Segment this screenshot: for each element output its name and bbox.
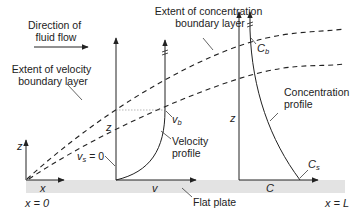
origin-z-label: z bbox=[16, 140, 23, 152]
concentration-profile-label: Concentration profile bbox=[284, 86, 352, 110]
leader-v-s bbox=[105, 156, 115, 166]
velocity-profile-curve bbox=[116, 110, 165, 180]
c-s-label: Cs bbox=[308, 158, 320, 172]
concentration-z-label: z bbox=[229, 112, 236, 124]
end-position-label: x = L bbox=[324, 197, 349, 209]
leader-concentration-layer bbox=[203, 38, 213, 50]
concentration-layer-label: Extent of concentration boundary layer bbox=[155, 5, 265, 29]
start-position-label: x = 0 bbox=[24, 197, 50, 209]
leader-c-b bbox=[251, 38, 256, 44]
concentration-c-label: C bbox=[266, 182, 274, 194]
leader-concentration-profile bbox=[270, 113, 278, 121]
origin-x-label: x bbox=[39, 182, 46, 194]
v-s-label: vs = 0 bbox=[77, 150, 104, 164]
velocity-profile-label: Velocity profile bbox=[172, 135, 211, 159]
flat-plate-label: Flat plate bbox=[193, 196, 236, 208]
c-b-label: Cb bbox=[257, 42, 269, 56]
flow-direction-label: Direction of fluid flow bbox=[28, 19, 84, 43]
leader-c-s bbox=[300, 170, 308, 178]
velocity-z-label: z bbox=[105, 121, 112, 133]
velocity-layer-label: Extent of velocity boundary layer bbox=[12, 63, 94, 87]
v-b-label: vb bbox=[172, 113, 182, 127]
boundary-layer-diagram: Direction of fluid flow Extent of concen… bbox=[0, 0, 364, 213]
